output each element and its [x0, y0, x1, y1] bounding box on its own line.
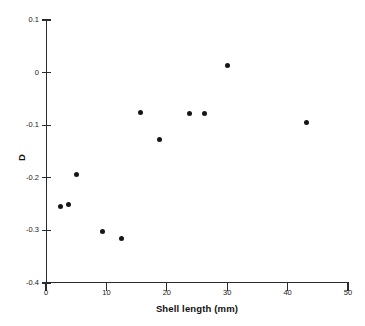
y-axis-title: D	[16, 154, 27, 161]
y-tick-label: -0.1	[26, 121, 39, 129]
x-axis-title: Shell length (mm)	[46, 303, 348, 314]
y-tick-label: 0	[35, 69, 39, 77]
data-point	[138, 110, 143, 115]
x-tick-label: 20	[163, 289, 171, 297]
y-tick-label: 0.1	[29, 16, 39, 24]
data-point	[187, 111, 192, 116]
x-axis-line	[46, 282, 348, 283]
data-point	[157, 137, 162, 142]
y-tick-mark	[42, 230, 51, 231]
y-tick-label: -0.2	[26, 174, 39, 182]
plot-area: 0.10-0.1-0.2-0.3-0.4 01020304050	[46, 20, 348, 283]
y-tick-label: -0.4	[26, 279, 39, 287]
data-point	[304, 120, 309, 125]
data-point	[202, 111, 207, 116]
data-point	[225, 63, 230, 68]
data-point	[66, 202, 71, 207]
data-point	[100, 229, 105, 234]
data-point	[74, 172, 79, 177]
y-tick-label: -0.3	[26, 227, 39, 235]
y-tick-mark	[42, 72, 51, 73]
x-tick-label: 30	[223, 289, 231, 297]
y-axis-line	[46, 20, 47, 283]
y-tick-mark	[42, 125, 51, 126]
data-point	[58, 204, 63, 209]
x-tick-label: 10	[102, 289, 110, 297]
x-tick-label: 50	[344, 289, 352, 297]
y-tick-mark	[42, 177, 51, 178]
x-tick-label: 0	[44, 289, 48, 297]
x-tick-label: 40	[283, 289, 291, 297]
scatter-plot-figure: 0.10-0.1-0.2-0.3-0.4 01020304050 D Shell…	[0, 0, 365, 326]
data-point	[119, 236, 124, 241]
y-tick-mark	[42, 19, 51, 20]
